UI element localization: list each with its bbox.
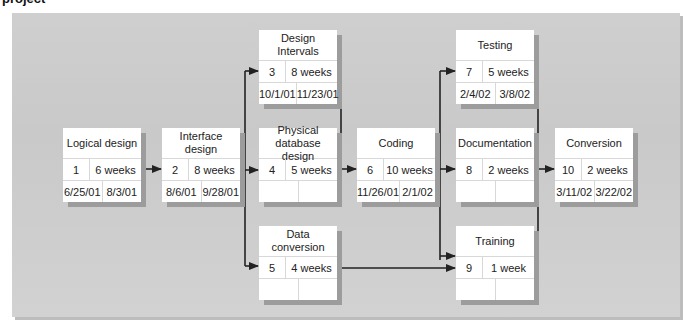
- task-node-logical-design: Logical design 16 weeks 6/25/018/3/01: [63, 128, 141, 202]
- task-name: Conversion: [555, 128, 633, 159]
- task-end: [299, 279, 338, 300]
- task-end: [496, 181, 535, 202]
- task-start: 2/4/02: [456, 83, 496, 104]
- task-id: 9: [456, 257, 483, 278]
- task-duration: 8 weeks: [189, 159, 240, 180]
- task-start: 8/6/01: [162, 181, 202, 202]
- task-end: [299, 181, 338, 202]
- task-start: 3/11/02: [555, 181, 595, 202]
- task-id: 6: [357, 159, 384, 180]
- task-duration: 8 weeks: [286, 61, 337, 82]
- task-duration: 4 weeks: [286, 257, 337, 278]
- task-id: 1: [63, 159, 90, 180]
- task-start: 6/25/01: [63, 181, 103, 202]
- task-start: [456, 279, 496, 300]
- task-end: 3/22/02: [595, 181, 634, 202]
- task-id: 4: [259, 159, 286, 180]
- task-name: Physical database design: [259, 128, 337, 159]
- task-name: Documentation: [456, 128, 534, 159]
- task-node-conversion: Conversion 102 weeks 3/11/023/22/02: [555, 128, 633, 202]
- task-node-coding: Coding 610 weeks 11/26/012/1/02: [357, 128, 435, 202]
- task-duration: 2 weeks: [483, 159, 534, 180]
- task-start: [259, 279, 299, 300]
- task-name: Design Intervals: [259, 30, 337, 61]
- task-start: [259, 181, 299, 202]
- task-name: Coding: [357, 128, 435, 159]
- task-node-design-intervals: Design Intervals 38 weeks 10/1/0111/23/0…: [259, 30, 337, 104]
- task-end: 8/3/01: [103, 181, 142, 202]
- task-start: 11/26/01: [357, 181, 400, 202]
- task-duration: 5 weeks: [286, 159, 337, 180]
- task-duration: 5 weeks: [483, 61, 534, 82]
- task-name: Data conversion: [259, 226, 337, 257]
- task-node-training: Training 91 week: [456, 226, 534, 300]
- task-end: 9/28/01: [202, 181, 241, 202]
- task-id: 8: [456, 159, 483, 180]
- task-duration: 6 weeks: [90, 159, 141, 180]
- task-id: 3: [259, 61, 286, 82]
- task-name: Interface design: [162, 128, 240, 159]
- task-end: [496, 279, 535, 300]
- task-id: 7: [456, 61, 483, 82]
- task-node-testing: Testing 75 weeks 2/4/023/8/02: [456, 30, 534, 104]
- task-duration: 1 week: [483, 257, 534, 278]
- task-name: Logical design: [63, 128, 141, 159]
- task-name: Testing: [456, 30, 534, 61]
- task-id: 2: [162, 159, 189, 180]
- task-id: 10: [555, 159, 582, 180]
- task-node-interface-design: Interface design 28 weeks 8/6/019/28/01: [162, 128, 240, 202]
- task-start: 10/1/01: [259, 83, 297, 104]
- task-start: [456, 181, 496, 202]
- task-end: 3/8/02: [496, 83, 535, 104]
- task-end: 2/1/02: [400, 181, 435, 202]
- task-end: 11/23/01: [297, 83, 339, 104]
- task-node-physical-database-design: Physical database design 45 weeks: [259, 128, 337, 202]
- task-id: 5: [259, 257, 286, 278]
- task-duration: 10 weeks: [384, 159, 435, 180]
- task-duration: 2 weeks: [582, 159, 633, 180]
- task-name: Training: [456, 226, 534, 257]
- task-node-data-conversion: Data conversion 54 weeks: [259, 226, 337, 300]
- task-node-documentation: Documentation 82 weeks: [456, 128, 534, 202]
